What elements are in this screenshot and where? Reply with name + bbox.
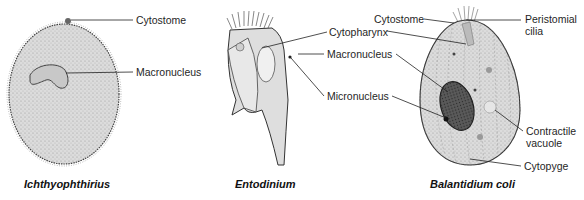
balantidium-drawing (387, 6, 523, 166)
label-bal-contractile-line1: Contractile (526, 125, 576, 137)
label-ich-cytostome: Cytostome (136, 14, 186, 26)
label-ento-micronucleus: Micronucleus (327, 90, 389, 102)
label-bal-peristomial: Peristomial cilia (525, 13, 577, 37)
label-bal-cytopyge: Cytopyge (524, 160, 568, 172)
label-bal-peristomial-line2: cilia (525, 25, 577, 37)
label-bal-cytostome: Cytostome (374, 13, 424, 25)
label-ento-macronucleus: Macronucleus (327, 48, 392, 60)
label-ich-macronucleus: Macronucleus (136, 66, 201, 78)
diagram-canvas (0, 0, 584, 200)
label-bal-contractile-vacuole: Contractile vacuole (526, 125, 576, 149)
label-ento-cytopharynx: Cytopharynx (329, 26, 388, 38)
caption-ichthyophthirius: Ichthyophthirius (24, 178, 110, 190)
entodinium-drawing (227, 11, 327, 165)
label-bal-contractile-line2: vacuole (526, 137, 576, 149)
ento-macronucleus-shape (257, 46, 275, 82)
label-bal-peristomial-line1: Peristomial (525, 13, 577, 25)
caption-balantidium-coli: Balantidium coli (430, 178, 515, 190)
ichthyophthirius-drawing (7, 18, 133, 166)
caption-entodinium: Entodinium (235, 178, 296, 190)
